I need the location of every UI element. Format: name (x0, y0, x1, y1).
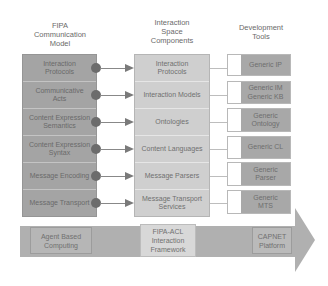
arrow-right-icon (125, 64, 134, 72)
tool-box: Generic Ontology (227, 108, 291, 132)
stage-capnet-platform: CAPNET Platform (252, 227, 292, 254)
tool-box: Generic IM Generic KB (227, 81, 291, 104)
stage-label: Agent Based Computing (36, 232, 86, 250)
cell-label: Message Parsers (145, 172, 199, 181)
arrow-right-icon (125, 91, 134, 99)
arrow-right-icon (125, 145, 134, 153)
fipa-cell: Message Transport (23, 190, 96, 216)
tool-label-box: Generic Parser (241, 163, 290, 185)
tool-label: Generic Ontology (246, 112, 286, 129)
connector-line (210, 95, 227, 96)
fipa-cell: Content Expression Semantics (23, 109, 96, 136)
tool-box: Generic IP (227, 54, 291, 76)
stage-label: FIPA-ACL Interaction Framework (143, 227, 193, 254)
connector-line (210, 176, 227, 177)
arrow-line (100, 122, 126, 123)
tool-label: Generic IM Generic KB (246, 84, 286, 101)
tool-label-box: Generic IP (241, 55, 290, 75)
connector-line (210, 149, 227, 150)
connector-line (210, 122, 227, 123)
stage-fipa-acl-framework: FIPA-ACL Interaction Framework (140, 224, 196, 257)
stage-label: CAPNET Platform (254, 232, 290, 250)
fipa-cell: Content Expression Syntax (23, 136, 96, 163)
header-line: Components (130, 36, 214, 45)
connector-line (210, 203, 227, 204)
arrow-right-icon (125, 118, 134, 126)
header-line: Development (226, 23, 296, 32)
header-line: FIPA (18, 21, 102, 30)
arrow-line (100, 95, 126, 96)
tool-label: Generic IP (249, 61, 282, 70)
tool-label-box: Generic MTS (241, 191, 290, 213)
cell-label: Message Encoding (30, 172, 90, 181)
cell-label: Message Transport (30, 199, 90, 208)
connector-line (210, 68, 227, 69)
cell-label: Interaction Protocols (30, 60, 90, 77)
arrow-head-icon (295, 208, 315, 272)
header-line: Tools (226, 32, 296, 41)
fipa-cell: Communicative Acts (23, 82, 96, 109)
cell-label: Interaction Protocols (147, 60, 197, 77)
header-interaction-space: Interaction Space Components (130, 18, 214, 45)
cell-label: Interaction Models (143, 91, 200, 100)
header-fipa-model: FIPA Communication Model (18, 21, 102, 48)
tool-label: Generic CL (248, 143, 283, 152)
header-development-tools: Development Tools (226, 23, 296, 41)
tool-label: Generic Parser (249, 166, 283, 183)
component-cell: Content Languages (135, 136, 209, 163)
arrow-line (100, 203, 126, 204)
cell-label: Message Transport Services (139, 195, 205, 212)
header-line: Interaction (130, 18, 214, 27)
header-line: Model (18, 39, 102, 48)
component-cell: Interaction Models (135, 82, 209, 109)
fipa-cell: Message Encoding (23, 163, 96, 190)
arrow-right-icon (125, 199, 134, 207)
tool-box: Generic Parser (227, 162, 291, 186)
header-line: Communication (18, 30, 102, 39)
component-cell: Message Transport Services (135, 190, 209, 216)
tool-label-box: Generic IM Generic KB (241, 82, 290, 103)
arrow-line (100, 176, 126, 177)
cell-label: Ontologies (155, 118, 188, 127)
tool-label-box: Generic CL (241, 137, 290, 158)
component-cell: Message Parsers (135, 163, 209, 190)
cell-label: Content Expression Semantics (24, 114, 96, 131)
component-cell: Interaction Protocols (135, 55, 209, 82)
header-line: Space (130, 27, 214, 36)
fipa-cell: Interaction Protocols (23, 55, 96, 82)
component-cell: Ontologies (135, 109, 209, 136)
tool-box: Generic CL (227, 136, 291, 159)
arrow-line (100, 149, 126, 150)
cell-label: Content Expression Syntax (24, 141, 96, 158)
cell-label: Content Languages (141, 145, 202, 154)
arrow-line (100, 68, 126, 69)
tool-label-box: Generic Ontology (241, 109, 290, 131)
tool-box: Generic MTS (227, 190, 291, 214)
cell-label: Communicative Acts (30, 87, 90, 104)
stage-agent-based-computing: Agent Based Computing (30, 227, 92, 254)
arrow-right-icon (125, 172, 134, 180)
tool-label: Generic MTS (249, 194, 283, 211)
